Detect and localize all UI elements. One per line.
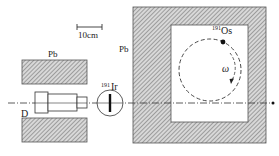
pb-left-label: Pb	[48, 49, 58, 59]
enclosure-cavity	[171, 25, 248, 122]
omega-label: ω	[222, 63, 229, 74]
diagram-canvas: 10cm Pb Pb D 191 Ir 191 Os ω	[0, 0, 279, 156]
ir-mass-number: 191	[101, 82, 110, 88]
scale-bar: 10cm	[77, 24, 102, 40]
ir-absorber	[97, 90, 123, 116]
axis-end-dot	[272, 102, 275, 105]
ir-symbol: Ir	[111, 81, 118, 92]
pb-right-label: Pb	[119, 44, 129, 54]
detector-label: D	[21, 108, 28, 119]
pb-enclosure	[133, 7, 266, 143]
detector	[35, 92, 87, 113]
os-mass-number: 191	[212, 25, 221, 31]
os-symbol: Os	[221, 25, 232, 36]
scale-bar-label: 10cm	[78, 30, 98, 40]
pb-shield-top-left	[22, 60, 87, 84]
os-source-dot	[221, 40, 226, 45]
pb-shield-bottom-left	[22, 118, 87, 142]
